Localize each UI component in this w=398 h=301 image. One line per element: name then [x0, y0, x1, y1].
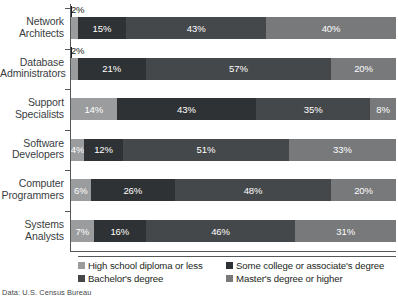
legend-item[interactable]: Some college or associate's degree — [226, 260, 384, 271]
segment-value-label: 33% — [333, 144, 352, 155]
bar-segment[interactable]: 8% — [370, 98, 396, 120]
bar-row: ComputerProgrammers6%26%48%20% — [0, 170, 398, 211]
legend-item-label: High school diploma or less — [88, 260, 203, 271]
category-label-line: Programmers — [0, 190, 64, 202]
segment-value-label: 43% — [187, 23, 206, 34]
segment-value-label: 26% — [123, 185, 142, 196]
segment-callout-leader — [71, 47, 72, 58]
stacked-bar[interactable]: 14%43%35%8% — [71, 98, 396, 120]
axis-tick — [65, 8, 70, 9]
category-label: ComputerProgrammers — [0, 178, 64, 201]
stacked-bar[interactable]: 15%43%40% — [71, 17, 396, 39]
category-label-line: Specialists — [0, 109, 64, 121]
bar-segment[interactable]: 40% — [266, 17, 396, 39]
axis-tick — [65, 49, 70, 50]
segment-value-label: 48% — [244, 185, 263, 196]
bar-segment[interactable]: 15% — [78, 17, 127, 39]
bar-segment[interactable]: 31% — [295, 220, 396, 242]
bar-segment[interactable]: 4% — [71, 139, 84, 161]
bar-segment[interactable]: 43% — [117, 98, 257, 120]
category-label: SoftwareDevelopers — [0, 138, 64, 161]
legend-item-label: Some college or associate's degree — [236, 260, 384, 271]
axis-tick — [65, 89, 70, 90]
segment-value-label: 15% — [93, 23, 112, 34]
bar-segment[interactable]: 46% — [146, 220, 296, 242]
bar-segment[interactable]: 12% — [84, 139, 123, 161]
category-label-line: Architects — [0, 28, 64, 40]
legend-divider — [78, 256, 396, 257]
legend-item-label: Bachelor's degree — [88, 273, 163, 284]
plot-area: NetworkArchitects2%15%43%40%DatabaseAdmi… — [0, 0, 398, 256]
bar-row: NetworkArchitects2%15%43%40% — [0, 8, 398, 49]
axis-tick — [65, 170, 70, 171]
stacked-bar[interactable]: 6%26%48%20% — [71, 179, 396, 201]
segment-value-label: 46% — [211, 226, 230, 237]
stacked-bar[interactable]: 7%16%46%31% — [71, 220, 396, 242]
bar-segment[interactable]: 6% — [71, 179, 91, 201]
category-label: SystemsAnalysts — [0, 219, 64, 242]
legend-item[interactable]: Master's degree or higher — [226, 273, 343, 284]
stacked-bar[interactable]: 4%12%51%33% — [71, 139, 396, 161]
segment-value-label: 14% — [84, 104, 103, 115]
bar-row: SystemsAnalysts7%16%46%31% — [0, 211, 398, 252]
source-note: Data: U.S. Census Bureau — [2, 288, 92, 297]
bar-segment[interactable]: 14% — [71, 98, 117, 120]
segment-value-label: 43% — [177, 104, 196, 115]
segment-callout-label: 2% — [71, 4, 84, 15]
segment-value-label: 57% — [229, 63, 248, 74]
category-label: NetworkArchitects — [0, 16, 64, 39]
bar-segment[interactable]: 48% — [175, 179, 331, 201]
segment-value-label: 8% — [376, 104, 390, 115]
legend-swatch-icon — [226, 262, 233, 269]
segment-callout-leader — [71, 6, 72, 17]
category-label-line: Administrators — [0, 68, 64, 80]
segment-value-label: 51% — [197, 144, 216, 155]
segment-value-label: 40% — [322, 23, 341, 34]
category-label-line: Analysts — [0, 231, 64, 243]
bar-segment[interactable]: 35% — [256, 98, 370, 120]
bar-segment[interactable]: 21% — [78, 58, 146, 80]
segment-value-label: 6% — [74, 185, 88, 196]
legend-swatch-icon — [78, 275, 85, 282]
bar-segment[interactable]: 26% — [91, 179, 176, 201]
bar-segment[interactable]: 16% — [94, 220, 146, 242]
axis-tick — [65, 211, 70, 212]
legend-swatch-icon — [226, 275, 233, 282]
category-label-line: Developers — [0, 149, 64, 161]
chart-legend: High school diploma or lessSome college … — [78, 258, 396, 286]
legend-item[interactable]: High school diploma or less — [78, 260, 203, 271]
bar-segment[interactable]: 51% — [123, 139, 289, 161]
bar-row: SupportSpecialists14%43%35%8% — [0, 89, 398, 130]
bar-segment[interactable]: 7% — [71, 220, 94, 242]
segment-value-label: 35% — [304, 104, 323, 115]
segment-value-label: 21% — [102, 63, 121, 74]
bar-segment[interactable]: 57% — [146, 58, 331, 80]
category-label: SupportSpecialists — [0, 97, 64, 120]
category-label: DatabaseAdministrators — [0, 57, 64, 80]
segment-value-label: 4% — [71, 144, 84, 155]
segment-value-label: 12% — [94, 144, 113, 155]
axis-tick — [65, 130, 70, 131]
bar-segment[interactable]: 20% — [331, 179, 396, 201]
segment-value-label: 7% — [76, 226, 90, 237]
bar-segment[interactable]: 33% — [289, 139, 396, 161]
segment-callout-label: 2% — [71, 45, 84, 56]
bar-segment[interactable]: 43% — [126, 17, 266, 39]
category-label-line: Systems — [0, 219, 64, 231]
segment-value-label: 20% — [354, 63, 373, 74]
segment-value-label: 31% — [336, 226, 355, 237]
legend-swatch-icon — [78, 262, 85, 269]
bar-segment[interactable]: 20% — [331, 58, 396, 80]
segment-value-label: 16% — [110, 226, 129, 237]
bar-row: DatabaseAdministrators2%21%57%20% — [0, 49, 398, 90]
stacked-bar[interactable]: 21%57%20% — [71, 58, 396, 80]
stacked-bar-chart: NetworkArchitects2%15%43%40%DatabaseAdmi… — [0, 0, 398, 301]
category-label-line: Network — [0, 16, 64, 28]
legend-item[interactable]: Bachelor's degree — [78, 273, 163, 284]
bar-row: SoftwareDevelopers4%12%51%33% — [0, 130, 398, 171]
legend-item-label: Master's degree or higher — [236, 273, 343, 284]
segment-value-label: 20% — [354, 185, 373, 196]
